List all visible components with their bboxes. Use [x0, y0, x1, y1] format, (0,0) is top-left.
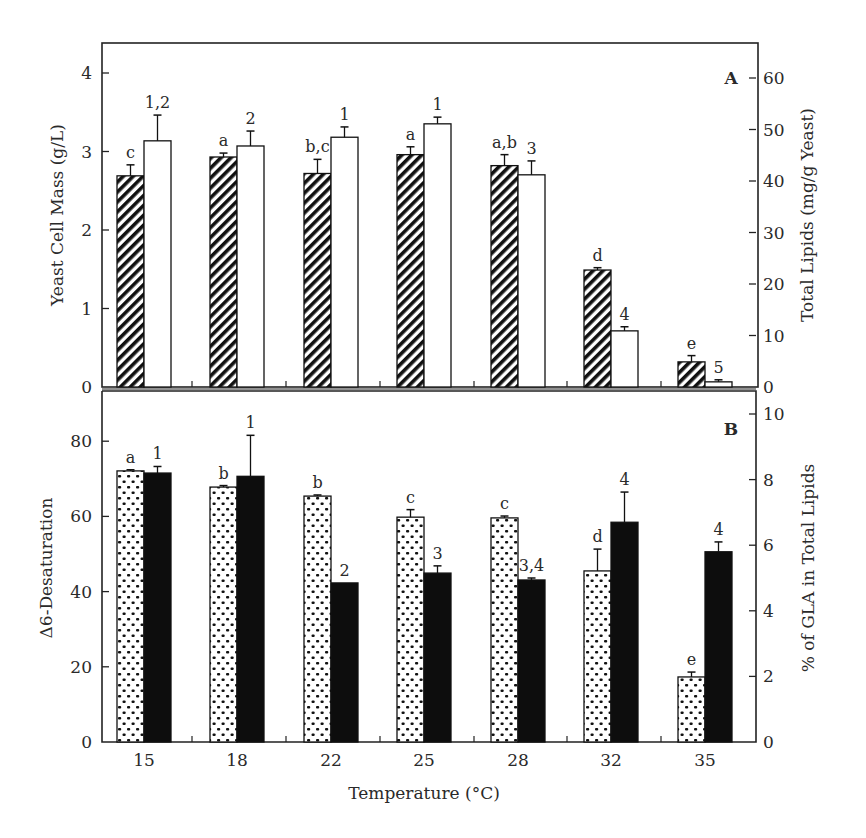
bar: c — [397, 488, 424, 742]
bar: 4 — [611, 470, 638, 742]
significance-label: 1 — [432, 95, 442, 114]
bar: c — [117, 143, 144, 387]
bar: 1 — [331, 105, 358, 387]
significance-label: a,b — [492, 133, 517, 152]
left-tick-label: 4 — [81, 63, 92, 83]
significance-label: c — [406, 488, 415, 507]
significance-label: c — [126, 143, 135, 162]
x-category-labels: 15182225283235 — [133, 750, 716, 770]
x-category-label: 18 — [226, 750, 248, 770]
x-category-label: 32 — [600, 750, 622, 770]
right-tick-label: 4 — [763, 601, 774, 621]
significance-label: a — [126, 448, 136, 467]
right-tick-label: 10 — [763, 404, 785, 424]
bar: 2 — [237, 109, 264, 387]
panel-b-left-axis-title: Δ6-Desaturation — [36, 498, 56, 639]
significance-label: a — [219, 131, 229, 150]
right-tick-label: 30 — [763, 223, 785, 243]
right-tick-label: 10 — [763, 326, 785, 346]
bar: 1,2 — [144, 93, 171, 387]
x-category-label: 35 — [694, 750, 716, 770]
right-tick-label: 60 — [763, 68, 785, 88]
significance-label: b,c — [305, 137, 329, 156]
significance-label: d — [592, 246, 602, 265]
significance-label: 4 — [713, 520, 723, 539]
significance-label: 5 — [713, 358, 723, 377]
bar: c — [491, 494, 518, 742]
bar: a — [117, 448, 144, 742]
significance-label: b — [218, 464, 228, 483]
significance-label: c — [500, 494, 509, 513]
right-tick-label: 0 — [763, 377, 774, 397]
right-tick-label: 20 — [763, 274, 785, 294]
significance-label: 4 — [619, 305, 629, 324]
x-category-label: 15 — [133, 750, 155, 770]
significance-label: 3 — [526, 139, 536, 158]
x-category-label: 28 — [507, 750, 529, 770]
bar: 4 — [705, 520, 732, 742]
bar: e — [678, 334, 705, 387]
left-tick-label: 1 — [81, 299, 92, 319]
significance-label: d — [592, 527, 602, 546]
panel-a-right-axis-title: Total Lipids (mg/g Yeast) — [797, 108, 817, 322]
left-tick-label: 60 — [70, 506, 92, 526]
left-tick-label: 80 — [70, 431, 92, 451]
x-axis-title: Temperature (°C) — [348, 783, 500, 803]
significance-label: 1 — [339, 105, 349, 124]
right-tick-label: 6 — [763, 535, 774, 555]
left-tick-label: 2 — [81, 220, 92, 240]
x-category-label: 25 — [413, 750, 435, 770]
bar: b,c — [304, 137, 331, 387]
left-tick-label: 40 — [70, 582, 92, 602]
panel-b: 020406080 0246810 abbccde11233,444 15182… — [36, 391, 818, 770]
bar: b — [304, 473, 331, 742]
bar: 3 — [518, 139, 545, 387]
panel-a-left-axis: 01234 — [81, 63, 109, 397]
panel-a-letter: A — [723, 68, 738, 88]
significance-label: e — [687, 650, 696, 669]
x-category-label: 22 — [320, 750, 342, 770]
chart-figure: 01234 0102030405060 cab,caa,bde1,2211345… — [0, 0, 866, 838]
right-tick-label: 40 — [763, 171, 785, 191]
significance-label: e — [687, 334, 696, 353]
significance-label: 1 — [245, 413, 255, 432]
significance-label: 4 — [619, 470, 629, 489]
bar: a — [397, 125, 424, 387]
bar: d — [584, 246, 611, 387]
significance-label: b — [312, 473, 322, 492]
panel-a-left-axis-title: Yeast Cell Mass (g/L) — [47, 124, 67, 307]
bar: 3 — [424, 544, 451, 742]
bar: 5 — [705, 358, 732, 387]
significance-label: 1 — [152, 444, 162, 463]
bar: d — [584, 527, 611, 742]
bar: 1 — [144, 444, 171, 742]
significance-label: a — [406, 125, 416, 144]
significance-label: 2 — [245, 109, 255, 128]
panel-b-right-axis: 0246810 — [749, 404, 785, 752]
bar: b — [210, 464, 237, 742]
panel-b-letter: B — [724, 419, 738, 439]
bar: e — [678, 650, 705, 742]
bar: a,b — [491, 133, 518, 387]
panel-b-right-axis-title: % of GLA in Total Lipids — [798, 464, 818, 673]
significance-label: 3 — [432, 544, 442, 563]
panel-b-bars: abbccde11233,444 — [117, 413, 732, 742]
panel-a-bars: cab,caa,bde1,2211345 — [117, 93, 732, 387]
bar: 2 — [331, 561, 358, 742]
panel-a: 01234 0102030405060 cab,caa,bde1,2211345… — [47, 43, 817, 397]
left-tick-label: 0 — [81, 732, 92, 752]
bar: 1 — [237, 413, 264, 742]
left-tick-label: 3 — [81, 142, 92, 162]
right-tick-label: 8 — [763, 470, 774, 490]
left-tick-label: 0 — [81, 377, 92, 397]
right-tick-label: 50 — [763, 120, 785, 140]
bar: 1 — [424, 95, 451, 387]
bar: 4 — [611, 305, 638, 387]
panel-b-left-axis: 020406080 — [70, 431, 109, 752]
bar: a — [210, 131, 237, 387]
significance-label: 2 — [339, 561, 349, 580]
significance-label: 1,2 — [145, 93, 170, 112]
left-tick-label: 20 — [70, 657, 92, 677]
right-tick-label: 0 — [763, 732, 774, 752]
panel-a-right-axis: 0102030405060 — [749, 68, 785, 397]
